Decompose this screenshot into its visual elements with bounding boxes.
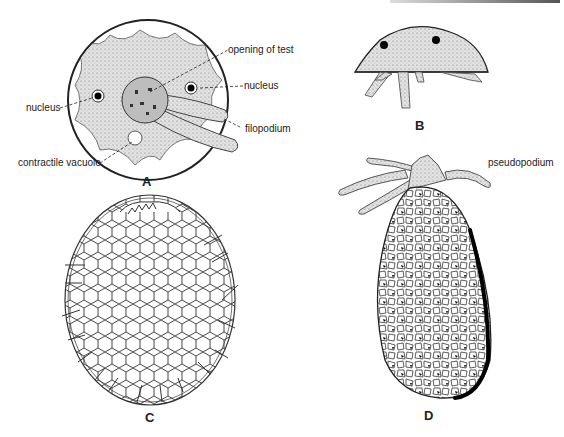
label-filopodium: filopodium [245,123,291,135]
panel-c-drawing [62,195,238,405]
label-nucleus-right: nucleus [244,80,278,92]
label-opening-of-test: opening of test [228,44,294,56]
panel-d-drawing [339,155,491,398]
panel-a-drawing [60,20,243,180]
panel-letter-b: B [415,118,424,133]
figure: opening of test nucleus nucleus filopodi… [0,0,564,437]
panel-letter-c: C [145,410,154,425]
illustration [0,0,564,437]
panel-letter-d: D [424,408,433,423]
label-nucleus-left: nucleus [26,102,60,114]
panel-letter-a: A [142,174,151,189]
panel-b-drawing [355,27,488,108]
label-contractile-vacuole: contractile vacuole [18,157,101,169]
label-pseudopodium: pseudopodium [488,157,554,169]
